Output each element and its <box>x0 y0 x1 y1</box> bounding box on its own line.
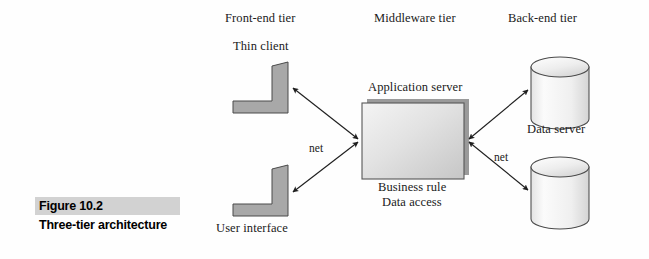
data-server-icon <box>531 57 589 129</box>
edge-label-net-right: net <box>494 151 508 163</box>
second-database-icon <box>531 157 589 229</box>
figure-caption: Figure 10.2 Three-tier architecture <box>35 197 180 233</box>
node-label-data-server: Data server <box>527 122 585 137</box>
tier-label-middleware: Middleware tier <box>374 11 456 26</box>
figure-three-tier-architecture: Front-end tier Middleware tier Back-end … <box>0 0 649 259</box>
connector-server-to-data-server <box>469 90 528 139</box>
node-sublabel-data-access: Data access <box>382 195 442 210</box>
user-interface-icon <box>233 165 288 216</box>
application-server-icon <box>362 99 469 179</box>
connector-user-interface-to-server <box>293 142 358 192</box>
node-label-application-server: Application server <box>368 80 462 95</box>
figure-number: Figure 10.2 <box>35 197 180 215</box>
node-sublabel-business-rule: Business rule <box>378 180 446 195</box>
thin-client-icon <box>233 62 288 113</box>
tier-label-back-end: Back-end tier <box>508 11 577 26</box>
connector-thin-client-to-server <box>293 88 358 139</box>
node-label-user-interface: User interface <box>216 221 288 236</box>
connector-server-to-second-database <box>469 142 528 190</box>
node-label-thin-client: Thin client <box>233 39 289 54</box>
tier-label-front-end: Front-end tier <box>225 11 295 26</box>
figure-title: Three-tier architecture <box>35 215 180 233</box>
edge-label-net-left: net <box>309 142 323 154</box>
